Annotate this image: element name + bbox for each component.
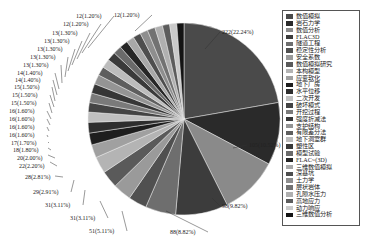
pie-slice: [184, 23, 279, 119]
leader-line: [61, 65, 62, 83]
legend-item: 水平位移: [286, 88, 356, 95]
legend-label: 三维数值模拟: [296, 164, 332, 171]
leader-line: [48, 142, 49, 143]
data-label: 12(1.20%): [63, 21, 89, 28]
legend-label: 破坏模式: [296, 102, 320, 109]
pie-slices: [88, 23, 280, 215]
data-label: 105(10.52%): [249, 142, 281, 149]
legend-swatch: [286, 206, 293, 211]
data-label: 13(1.30%): [23, 62, 49, 69]
legend-item: 地下厂房: [286, 81, 356, 88]
legend-swatch: [286, 69, 293, 74]
data-label: 12(1.20%): [114, 12, 140, 19]
legend-label: 开挖过程: [296, 109, 320, 116]
legend-label: 有限差分法: [296, 129, 326, 136]
legend-swatch: [286, 137, 293, 142]
data-label: 13(1.30%): [37, 46, 63, 53]
leader-line: [47, 127, 49, 131]
legend-swatch: [286, 62, 293, 67]
data-label: 31(3.11%): [70, 215, 95, 222]
legend-item: 地下洞室群: [286, 136, 356, 143]
data-label: 16(1.60%): [9, 124, 35, 131]
legend-item: 数值模拟研究: [286, 61, 356, 68]
legend-label: 深基坑: [296, 170, 314, 177]
leader-line: [47, 135, 48, 137]
legend-label: 数值分析: [296, 27, 320, 34]
legend-item: 动力响应: [286, 205, 356, 212]
leader-line: [53, 80, 57, 95]
legend-label: 应变软化: [296, 75, 320, 82]
data-label: 98(9.82%): [222, 203, 248, 210]
legend-label: 孔隙水压力: [296, 191, 326, 198]
leader-line: [48, 148, 51, 150]
leader-line: [82, 24, 101, 53]
legend-swatch: [286, 96, 293, 101]
legend-label: FLAC~(3D): [296, 157, 327, 164]
legend-item: 孔隙水压力: [286, 191, 356, 198]
legend-label: 二次开发: [296, 95, 320, 102]
data-label: 29(2.91%): [33, 189, 59, 196]
data-label: 14(1.40%): [15, 77, 41, 84]
data-label: 16(1.60%): [9, 116, 35, 123]
legend-swatch: [286, 178, 293, 183]
legend-swatch: [286, 14, 293, 19]
legend: 数值模拟岩石力学数值分析FLAC3D隧道工程稳定性分析安全系数数值模拟研究本构模…: [282, 10, 360, 226]
legend-item: 三维数值分析: [286, 211, 356, 218]
legend-label: 水平位移: [296, 88, 320, 95]
legend-label: 本构模型: [296, 68, 320, 75]
legend-swatch: [286, 48, 293, 53]
legend-item: FLAC3D: [286, 34, 356, 41]
legend-label: 动力响应: [296, 205, 320, 212]
legend-item: 二次开发: [286, 95, 356, 102]
legend-swatch: [286, 28, 293, 33]
leader-line: [122, 211, 127, 231]
legend-swatch: [286, 144, 293, 149]
legend-item: 安全系数: [286, 54, 356, 61]
legend-item: 支护结构: [286, 123, 356, 130]
legend-swatch: [286, 165, 293, 170]
data-label: 88(8.82%): [170, 229, 196, 236]
legend-item: 数值模拟: [286, 13, 356, 20]
legend-swatch: [286, 158, 293, 163]
legend-swatch: [286, 76, 293, 81]
legend-item: 破坏模式: [286, 102, 356, 109]
legend-item: 隧道工程: [286, 40, 356, 47]
data-label: 14(1.40%): [17, 70, 43, 77]
legend-swatch: [286, 110, 293, 115]
data-label: 18(1.80%): [13, 147, 39, 154]
leader-line: [52, 87, 55, 101]
data-label: 13(1.30%): [44, 38, 70, 45]
leader-line: [48, 155, 55, 158]
data-label: 12(1.20%): [76, 13, 102, 20]
legend-label: 塑性区: [296, 143, 314, 150]
legend-swatch: [286, 185, 293, 190]
legend-item: FLAC~(3D): [286, 157, 356, 164]
legend-swatch: [286, 151, 293, 156]
data-label: 20(2.00%): [17, 155, 43, 162]
legend-item: 开挖过程: [286, 109, 356, 116]
leader-line: [55, 176, 63, 177]
legend-label: 安全系数: [296, 54, 320, 61]
legend-label: 层状岩体: [296, 184, 320, 191]
legend-label: 支护结构: [296, 123, 320, 130]
leader-line: [88, 16, 114, 48]
leader-line: [65, 57, 68, 77]
leader-line: [83, 190, 85, 205]
data-label: 31(3.11%): [45, 202, 70, 209]
data-label: 13(1.30%): [52, 30, 78, 37]
data-label: 13(1.30%): [30, 54, 56, 61]
legend-swatch: [286, 35, 293, 40]
legend-item: 岩石力学: [286, 20, 356, 27]
legend-item: 高地应力: [286, 198, 356, 205]
legend-label: 地下洞室群: [296, 136, 326, 143]
legend-label: 模型试验: [296, 150, 320, 157]
legend-label: 数值模拟: [296, 13, 320, 20]
data-label: 16(1.60%): [9, 108, 35, 115]
legend-swatch: [286, 124, 293, 129]
legend-swatch: [286, 199, 293, 204]
leader-line: [77, 33, 90, 59]
data-label: 16(1.60%): [9, 132, 35, 139]
legend-item: 数值分析: [286, 27, 356, 34]
leader-line: [100, 201, 108, 218]
legend-swatch: [286, 89, 293, 94]
